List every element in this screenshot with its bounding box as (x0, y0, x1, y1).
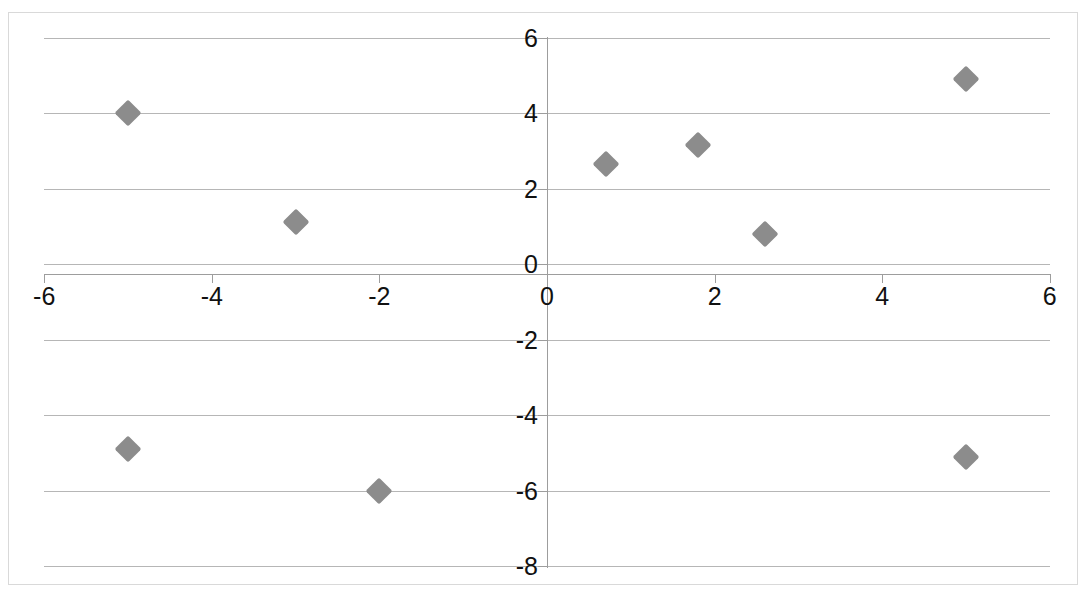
data-point-marker[interactable] (751, 220, 778, 247)
data-point-marker[interactable] (953, 66, 980, 93)
data-point-marker[interactable] (684, 132, 711, 159)
data-point-marker[interactable] (953, 443, 980, 470)
data-point-marker[interactable] (366, 477, 393, 504)
data-point-marker[interactable] (592, 151, 619, 178)
data-point-marker[interactable] (115, 100, 142, 127)
scatter-chart: 6420-2-4-6-8 -6-4-20246 (0, 0, 1092, 600)
data-point-marker[interactable] (115, 436, 142, 463)
data-point-series (0, 0, 1092, 600)
plot-area: 6420-2-4-6-8 -6-4-20246 (0, 0, 1092, 600)
data-point-marker[interactable] (282, 209, 309, 236)
